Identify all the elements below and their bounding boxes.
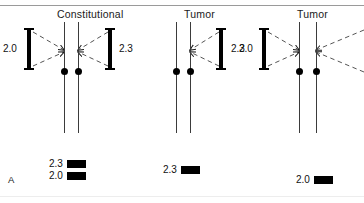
legend-label: 2.3 bbox=[163, 164, 177, 175]
probe-bar-cap-bottom bbox=[216, 68, 226, 70]
chromosome-line bbox=[299, 22, 300, 133]
legend-label: 2.0 bbox=[296, 174, 310, 185]
legend-swatch bbox=[181, 166, 200, 174]
probe-value-label: 2.0 bbox=[3, 43, 17, 54]
probe-bar-stem bbox=[108, 30, 112, 68]
bottom-divider-rule bbox=[0, 196, 364, 197]
centromere-dot bbox=[61, 68, 68, 75]
chromosome-line bbox=[78, 22, 79, 133]
probe-bar-stem bbox=[262, 30, 266, 68]
fish-probe-figure: Constitutional 2.0 2.3 2.3 2.0 Tumor 2.3… bbox=[0, 0, 364, 203]
panel-letter-label: A bbox=[8, 174, 14, 185]
legend-swatch bbox=[67, 160, 86, 168]
probe-bar-cap-bottom bbox=[259, 68, 269, 70]
centromere-dot bbox=[75, 68, 82, 75]
panel-title-tumor-2: Tumor bbox=[297, 8, 328, 20]
panel-title-constitutional: Constitutional bbox=[57, 8, 123, 20]
probe-bar-stem bbox=[27, 30, 31, 68]
probe-marker-bar bbox=[24, 28, 34, 70]
centromere-dot bbox=[313, 68, 320, 75]
chromosome-line bbox=[316, 22, 317, 133]
centromere-dot bbox=[296, 68, 303, 75]
probe-bar-cap-bottom bbox=[24, 68, 34, 70]
legend-item: 2.3 bbox=[49, 158, 86, 169]
legend-item: 2.0 bbox=[296, 174, 333, 185]
probe-bar-stem bbox=[219, 30, 223, 68]
probe-bar-cap-bottom bbox=[105, 68, 115, 70]
chromosome-line bbox=[64, 22, 65, 133]
centromere-dot bbox=[173, 68, 180, 75]
legend-swatch bbox=[67, 172, 86, 180]
legend-label: 2.3 bbox=[49, 158, 63, 169]
chromosome-line bbox=[176, 22, 177, 133]
legend-label: 2.0 bbox=[49, 170, 63, 181]
legend-item: 2.3 bbox=[163, 164, 200, 175]
probe-marker-bar bbox=[259, 28, 269, 70]
probe-value-label: 2.0 bbox=[239, 43, 253, 54]
probe-marker-bar bbox=[105, 28, 115, 70]
centromere-dot bbox=[187, 68, 194, 75]
legend-swatch bbox=[314, 176, 333, 184]
panel-title-tumor-1: Tumor bbox=[184, 8, 215, 20]
probe-marker-bar bbox=[216, 28, 226, 70]
chromosome-line bbox=[190, 22, 191, 133]
legend-item: 2.0 bbox=[49, 170, 86, 181]
top-divider-rule bbox=[0, 5, 364, 6]
probe-value-label: 2.3 bbox=[119, 43, 133, 54]
